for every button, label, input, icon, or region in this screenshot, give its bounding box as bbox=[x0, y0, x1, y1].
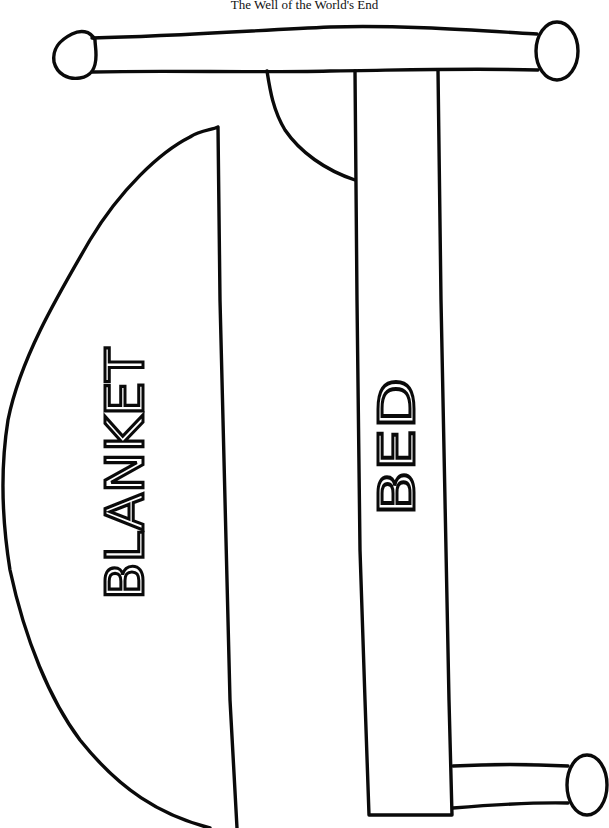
headboard-knob-right bbox=[536, 22, 578, 80]
headboard-bar bbox=[92, 27, 538, 72]
footboard-bar bbox=[453, 765, 568, 809]
blanket-label: BLANKET bbox=[95, 348, 155, 600]
footboard-knob bbox=[567, 755, 607, 815]
headboard-knob-left bbox=[54, 32, 96, 79]
pillow bbox=[267, 71, 355, 180]
bed-diagram: BLANKET BED bbox=[0, 0, 609, 828]
bed-label: BED bbox=[368, 378, 426, 516]
